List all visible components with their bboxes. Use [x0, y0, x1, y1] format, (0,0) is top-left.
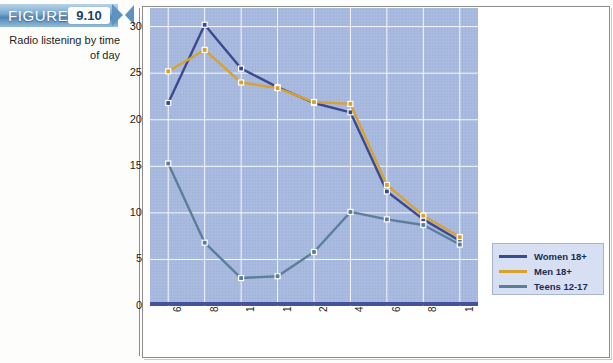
- data-point: [348, 209, 353, 214]
- figure-number-box: 9.10: [68, 7, 110, 24]
- plot-area: [150, 8, 478, 306]
- data-point: [384, 182, 389, 187]
- data-point: [202, 240, 207, 245]
- legend-label: Men 18+: [534, 266, 572, 277]
- data-point: [275, 86, 280, 91]
- y-tick-label: 30: [114, 20, 142, 32]
- data-point: [384, 189, 389, 194]
- y-tick-label: 25: [114, 66, 142, 78]
- data-point: [312, 100, 317, 105]
- data-point: [421, 213, 426, 218]
- data-point: [239, 276, 244, 281]
- data-point: [202, 47, 207, 52]
- data-point: [384, 217, 389, 222]
- data-point: [457, 242, 462, 247]
- data-point: [421, 222, 426, 227]
- data-point: [275, 274, 280, 279]
- y-tick-label: 20: [114, 113, 142, 125]
- y-tick-label: 5: [114, 252, 142, 264]
- y-tick-label: 10: [114, 206, 142, 218]
- legend-color-swatch: [499, 270, 527, 273]
- figure-number: 9.10: [68, 8, 110, 23]
- line-chart-svg: [150, 8, 478, 306]
- y-tick-label: 0: [114, 299, 142, 311]
- data-point: [166, 69, 171, 74]
- legend-color-swatch: [499, 255, 527, 258]
- data-point: [239, 80, 244, 85]
- chart-legend: Women 18+Men 18+Teens 12-17: [492, 243, 604, 295]
- figure-caption: Radio listening by time of day: [0, 33, 120, 63]
- data-point: [166, 161, 171, 166]
- legend-label: Women 18+: [534, 251, 587, 262]
- legend-label: Teens 12-17: [534, 281, 588, 292]
- figure-page: FIGURE 9.10 Radio listening by time of d…: [0, 0, 613, 363]
- data-point: [166, 100, 171, 105]
- data-point: [457, 235, 462, 240]
- data-point: [348, 101, 353, 106]
- figure-word: FIGURE: [8, 7, 68, 24]
- legend-item: Teens 12-17: [499, 279, 597, 293]
- legend-color-swatch: [499, 285, 527, 288]
- legend-item: Men 18+: [499, 264, 597, 278]
- y-tick-label: 15: [114, 159, 142, 171]
- legend-item: Women 18+: [499, 249, 597, 263]
- data-point: [312, 249, 317, 254]
- data-point: [202, 22, 207, 27]
- data-point: [239, 66, 244, 71]
